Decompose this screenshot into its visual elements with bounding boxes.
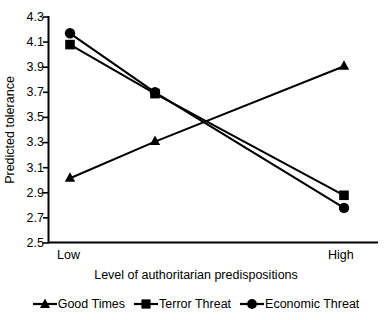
legend-item-good-times[interactable]: Good Times — [33, 297, 125, 311]
square-marker-icon — [134, 297, 158, 311]
data-point-marker-circle — [339, 203, 349, 213]
x-axis-title: Level of authoritarian predispositions — [0, 268, 392, 283]
legend-item-terror-threat[interactable]: Terror Threat — [134, 297, 231, 311]
data-point-marker-triangle — [339, 60, 349, 69]
data-point-marker-circle — [150, 87, 160, 97]
chart-legend: Good Times Terror Threat Economic Threat — [0, 294, 392, 314]
data-point-marker-square — [339, 191, 349, 201]
x-tick-label-low: Low — [57, 248, 80, 262]
legend-label: Terror Threat — [159, 297, 231, 311]
data-point-marker-square — [65, 40, 75, 50]
legend-item-economic-threat[interactable]: Economic Threat — [240, 297, 359, 311]
x-tick-label-high: High — [328, 248, 354, 262]
legend-label: Good Times — [58, 297, 125, 311]
triangle-marker-icon — [33, 297, 57, 311]
circle-marker-icon — [240, 297, 264, 311]
legend-label: Economic Threat — [265, 297, 359, 311]
data-point-marker-circle — [65, 28, 75, 38]
chart-figure: Predicted tolerance 4.3 4.1 3.9 3.7 3.5 … — [0, 0, 392, 320]
